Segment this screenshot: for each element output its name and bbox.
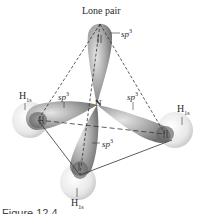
h1s-label-bottom: H1s — [71, 198, 84, 210]
nitrogen-label: N — [95, 99, 102, 108]
sp3-label-top: sp3 — [121, 28, 132, 39]
h1s-label-right-sub: 1s — [184, 110, 189, 116]
h1s-label-left-sub: 1s — [26, 97, 31, 103]
sp3-label-bottom-sup: 3 — [110, 138, 113, 144]
sp3-label-right: sp3 — [127, 91, 138, 102]
h1s-label-right: H1s — [177, 104, 190, 116]
sp3-label-left-text: sp — [58, 92, 66, 102]
h1s-label-left: H1s — [19, 91, 32, 103]
nh3-sp3-hybridization-diagram — [0, 0, 205, 214]
lone-pair-label: Lone pair — [82, 6, 121, 16]
sp3-label-top-sup: 3 — [129, 28, 132, 34]
sp3-label-bottom-text: sp — [102, 139, 110, 149]
sp3-label-bottom: sp3 — [102, 138, 113, 149]
figure-caption: Figure 12.4 — [2, 207, 58, 214]
sp3-label-top-text: sp — [121, 29, 129, 39]
sp3-label-right-text: sp — [127, 92, 135, 102]
h1s-label-bottom-sub: 1s — [78, 204, 83, 210]
sp3-label-right-sup: 3 — [135, 91, 138, 97]
sp3-lobe-lone-pair — [88, 24, 112, 105]
sp3-label-left: sp3 — [58, 91, 69, 102]
sp3-label-left-sup: 3 — [66, 91, 69, 97]
